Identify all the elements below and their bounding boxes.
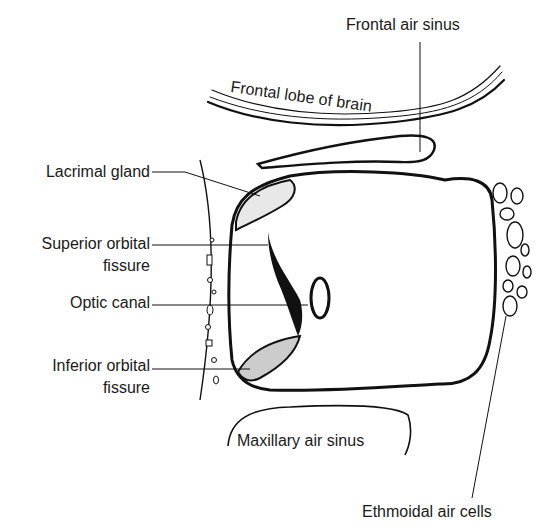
label-inferior-orbital-fissure-2: fissure [10, 379, 150, 397]
label-maxillary-air-sinus: Maxillary air sinus [237, 432, 364, 450]
label-superior-orbital-fissure-1: Superior orbital [10, 235, 150, 253]
label-optic-canal: Optic canal [10, 294, 150, 312]
optic-canal-shape [311, 278, 329, 318]
label-inferior-orbital-fissure-1: Inferior orbital [10, 357, 150, 375]
label-superior-orbital-fissure-2: fissure [10, 257, 150, 275]
label-lacrimal-gland: Lacrimal gland [20, 163, 150, 181]
ethmoidal-cells [493, 183, 531, 316]
label-ethmoidal-air-cells: Ethmoidal air cells [362, 503, 492, 521]
frontal-sinus-shape [258, 136, 435, 168]
label-frontal-air-sinus: Frontal air sinus [346, 16, 460, 34]
bone-dots [206, 238, 219, 384]
